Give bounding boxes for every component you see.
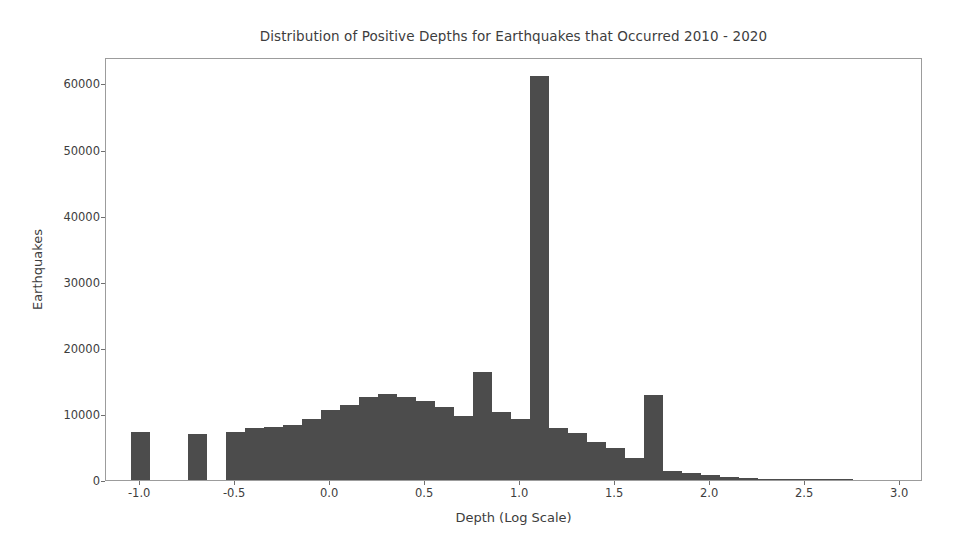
histogram-bar	[625, 458, 644, 480]
histogram-bar	[739, 478, 758, 480]
histogram-bar	[549, 428, 568, 480]
histogram-bar	[340, 405, 359, 480]
histogram-bar	[834, 479, 853, 480]
x-axis-tick-label: -0.5	[204, 486, 264, 500]
histogram-bar	[416, 401, 435, 480]
y-axis-tick-mark	[101, 481, 105, 482]
histogram-bar	[720, 477, 739, 480]
y-axis-tick-container: 0100002000030000400005000060000	[40, 0, 100, 546]
x-axis-tick-label: -1.0	[109, 486, 169, 500]
x-axis-tick-label: 2.5	[774, 486, 834, 500]
histogram-bar	[796, 479, 815, 480]
histogram-bar	[587, 442, 606, 480]
x-axis-tick-label: 1.0	[489, 486, 549, 500]
histogram-bar	[359, 397, 378, 480]
histogram-bar	[663, 471, 682, 480]
x-axis-tick-mark	[709, 481, 710, 485]
x-axis-label: Depth (Log Scale)	[105, 510, 922, 525]
histogram-bar	[644, 395, 663, 480]
y-axis-tick-mark	[101, 151, 105, 152]
histogram-bar	[454, 416, 473, 480]
x-axis-tick-mark	[329, 481, 330, 485]
histogram-bar	[226, 432, 245, 480]
histogram-bar	[682, 473, 701, 480]
y-axis-tick-mark	[101, 84, 105, 85]
histogram-bar	[131, 432, 150, 480]
x-axis-tick-label: 1.5	[584, 486, 644, 500]
x-axis-tick-mark	[424, 481, 425, 485]
y-axis-tick-mark	[101, 349, 105, 350]
histogram-bar	[378, 394, 397, 480]
histogram-bar	[245, 428, 264, 480]
x-axis-tick-mark	[899, 481, 900, 485]
histogram-bar	[758, 479, 777, 480]
y-axis-tick-mark	[101, 217, 105, 218]
y-axis-tick-label: 40000	[44, 210, 100, 224]
y-axis-tick-label: 60000	[44, 77, 100, 91]
histogram-bar	[264, 427, 283, 480]
histogram-bar	[530, 76, 549, 480]
x-axis-tick-label: 0.0	[299, 486, 359, 500]
histogram-bar	[397, 397, 416, 480]
y-axis-tick-mark	[101, 415, 105, 416]
histogram-bars	[106, 59, 921, 480]
y-axis-tick-label: 30000	[44, 276, 100, 290]
y-axis-tick-mark	[101, 283, 105, 284]
histogram-bar	[701, 475, 720, 480]
matplotlib-figure: Distribution of Positive Depths for Eart…	[0, 0, 955, 546]
x-axis-tick-label: 0.5	[394, 486, 454, 500]
histogram-bar	[492, 412, 511, 480]
x-axis-tick-label: 3.0	[869, 486, 929, 500]
histogram-bar	[321, 410, 340, 480]
plot-area	[105, 58, 922, 481]
histogram-bar	[473, 372, 492, 480]
histogram-bar	[302, 419, 321, 480]
y-axis-tick-label: 0	[44, 474, 100, 488]
y-axis-tick-label: 20000	[44, 342, 100, 356]
x-axis-tick-mark	[139, 481, 140, 485]
page-title: Distribution of Positive Depths for Eart…	[105, 28, 922, 44]
x-axis-tick-label: 2.0	[679, 486, 739, 500]
y-axis-tick-label: 50000	[44, 144, 100, 158]
x-axis-tick-mark	[234, 481, 235, 485]
x-axis-tick-mark	[614, 481, 615, 485]
histogram-bar	[606, 448, 625, 480]
histogram-bar	[283, 425, 302, 480]
histogram-bar	[435, 407, 454, 480]
x-axis-tick-mark	[519, 481, 520, 485]
histogram-bar	[815, 479, 834, 480]
histogram-bar	[568, 433, 587, 480]
histogram-bar	[777, 479, 796, 480]
y-axis-tick-label: 10000	[44, 408, 100, 422]
x-axis-tick-mark	[804, 481, 805, 485]
histogram-bar	[188, 434, 207, 480]
histogram-bar	[511, 419, 530, 480]
